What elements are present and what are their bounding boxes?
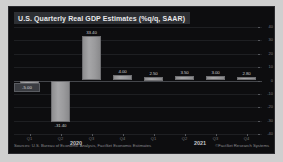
y-axis-tick-mark: [258, 27, 260, 28]
source-note: Sources: U.S. Bureau of Economic Analysi…: [14, 143, 151, 149]
y-axis-tick-label: 40: [260, 25, 273, 29]
y-axis-tick-mark: [258, 81, 260, 82]
gridline: [14, 40, 262, 41]
bar: [237, 77, 256, 81]
bar: [144, 77, 163, 80]
y-axis-tick-mark: [258, 94, 260, 95]
attribution-note: ©FactSet Research Systems: [215, 143, 269, 149]
y-axis-tick-mark: [258, 107, 260, 108]
y-axis-tick-label: -30: [260, 119, 273, 123]
bar: [51, 81, 70, 123]
y-axis-tick-mark: [258, 54, 260, 55]
chart-title: U.S. Quarterly Real GDP Estimates (%q/q,…: [14, 12, 190, 24]
bar-value-callout: -5.00: [14, 83, 40, 92]
x-axis-tick-label: Q4: [237, 136, 257, 141]
gridline: [14, 67, 262, 68]
bar-value-label: 2.80: [233, 71, 261, 76]
y-axis-tick-label: -20: [260, 105, 273, 109]
y-axis-tick-label: 20: [260, 52, 273, 56]
bar-value-label: 3.00: [202, 70, 230, 75]
y-axis-tick-mark: [258, 40, 260, 41]
y-axis-tick-label: 30: [260, 38, 273, 42]
bar-value-label: 33.40: [78, 30, 106, 35]
x-axis-tick-label: Q1: [144, 136, 164, 141]
bar-value-label: 4.00: [109, 69, 137, 74]
gdp-chart-figure: U.S. Quarterly Real GDP Estimates (%q/q,…: [8, 6, 275, 154]
gridline: [14, 54, 262, 55]
bar: [175, 76, 194, 81]
bar: [113, 75, 132, 80]
gridline: [14, 27, 262, 28]
y-axis-tick-mark: [258, 67, 260, 68]
bar-value-label: -31.40: [47, 123, 75, 128]
y-axis-tick-label: 10: [260, 65, 273, 69]
x-axis-tick-label: Q1: [20, 136, 40, 141]
bar: [206, 76, 225, 80]
y-axis-tick-label: 0: [260, 79, 273, 83]
bar-value-label: 2.50: [140, 71, 168, 76]
bar-value-label: 3.50: [171, 70, 199, 75]
y-axis-tick-mark: [258, 121, 260, 122]
plot-area: -5.00-31.4033.404.002.503.503.002.80: [14, 27, 262, 134]
x-axis-tick-label: Q4: [113, 136, 133, 141]
chart-footer: Sources: U.S. Bureau of Economic Analysi…: [14, 143, 269, 150]
y-axis-tick-label: -10: [260, 92, 273, 96]
y-axis: 403020100-10-20-30-40: [259, 27, 273, 134]
bar: [82, 36, 101, 81]
